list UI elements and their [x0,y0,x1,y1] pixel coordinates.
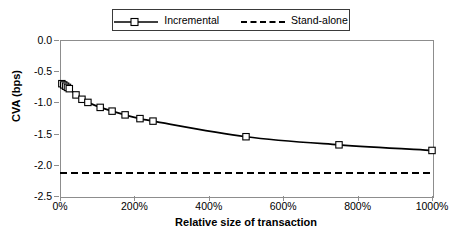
legend-label-stand-alone: Stand-alone [291,14,348,26]
plot-series-canvas [60,40,432,196]
series-marker [243,134,249,140]
series-marker [429,147,435,153]
series-marker [97,104,103,110]
x-axis-tick-label: 400% [174,200,244,212]
chart-figure: Incremental Stand-alone 0.0-0.5-1.0-1.5-… [0,0,458,241]
y-axis-tick-marks [0,40,60,196]
y-axis-tick-mark [54,71,59,72]
y-axis-tick-mark [54,196,59,197]
legend-label-incremental: Incremental [164,14,219,26]
series-marker [150,118,156,124]
series-marker [336,142,342,148]
y-axis-tick-mark [54,165,59,166]
y-axis-tick-mark [54,102,59,103]
x-axis-tick-label: 1000% [397,200,458,212]
legend-swatch-stand-alone-line [241,14,285,26]
series-marker [122,112,128,118]
x-axis-tick-label: 200% [99,200,169,212]
chart-legend: Incremental Stand-alone [112,9,350,31]
legend-entry-stand-alone: Stand-alone [241,10,348,30]
legend-entry-incremental: Incremental [114,10,219,30]
x-axis-tick-label: 800% [323,200,393,212]
series-marker [66,85,72,91]
series-marker [109,108,115,114]
x-axis-tick-label: 600% [248,200,318,212]
y-axis-tick-mark [54,40,59,41]
x-axis-tick-label: 0% [25,200,95,212]
series-marker [137,115,143,121]
y-axis-tick-mark [54,134,59,135]
x-axis-title: Relative size of transaction [60,216,432,228]
legend-swatch-incremental-line [114,14,158,26]
x-axis-tick-labels: 0%200%400%600%800%1000% [60,200,432,214]
y-axis-title: CVA (bps) [10,36,22,156]
series-marker [85,99,91,105]
